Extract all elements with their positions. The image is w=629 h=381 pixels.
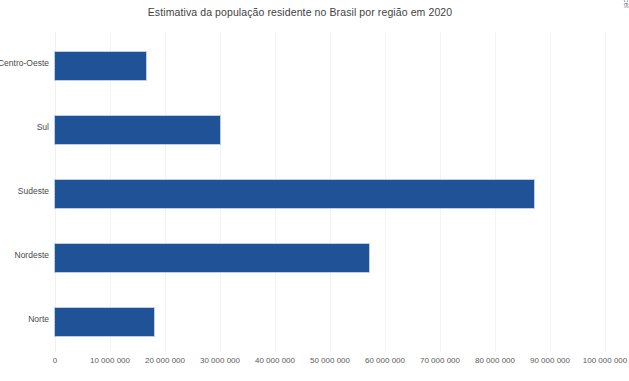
category-label-sul: Sul — [37, 122, 49, 132]
bar-row: Nordeste — [55, 224, 605, 288]
bar-centro-oeste — [55, 52, 146, 80]
x-tick-label: 100 000 000 — [583, 356, 628, 365]
bar-sul — [55, 116, 220, 144]
x-tick-label: 60 000 000 — [365, 356, 405, 365]
x-tick-label: 0 — [53, 356, 57, 365]
bar-row: Sudeste — [55, 160, 605, 224]
gridline — [605, 32, 606, 352]
bar-sudeste — [55, 180, 534, 208]
category-label-centro-oeste: Centro-Oeste — [0, 58, 49, 68]
bar-row: Sul — [55, 96, 605, 160]
x-tick-label: 30 000 000 — [200, 356, 240, 365]
category-label-sudeste: Sudeste — [18, 186, 49, 196]
chart-title: Estimativa da população residente no Bra… — [0, 6, 600, 18]
bar-norte — [55, 308, 154, 336]
x-tick-label: 20 000 000 — [145, 356, 185, 365]
image-credit: Reprodução/Microsoft Excel — [622, 0, 629, 8]
category-label-nordeste: Nordeste — [15, 250, 50, 260]
x-tick-label: 90 000 000 — [530, 356, 570, 365]
x-tick-label: 40 000 000 — [255, 356, 295, 365]
bar-row: Centro-Oeste — [55, 32, 605, 96]
x-tick-label: 10 000 000 — [90, 356, 130, 365]
plot-area: NorteNordesteSudesteSulCentro-Oeste — [55, 32, 605, 352]
x-tick-label: 70 000 000 — [420, 356, 460, 365]
x-tick-label: 80 000 000 — [475, 356, 515, 365]
x-tick-label: 50 000 000 — [310, 356, 350, 365]
category-label-norte: Norte — [28, 314, 49, 324]
bar-row: Norte — [55, 288, 605, 352]
bar-nordeste — [55, 244, 369, 272]
